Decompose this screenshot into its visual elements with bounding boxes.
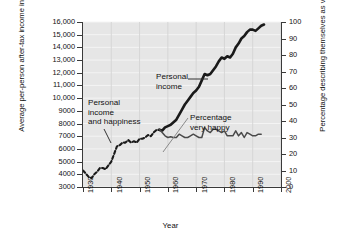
annotation-leader-lines bbox=[0, 0, 341, 240]
chart-container: 16,00015,00014,00013,00012,00011,00010,0… bbox=[0, 0, 341, 240]
